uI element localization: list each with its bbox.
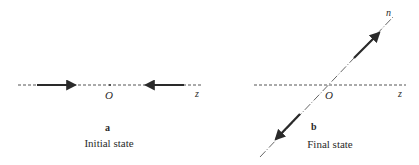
origin-label: O <box>325 89 333 101</box>
panel-letter: b <box>311 121 317 132</box>
z-axis-label: z <box>194 88 199 99</box>
origin-dot <box>109 84 111 86</box>
panel-letter: a <box>105 122 110 133</box>
panel-caption: Initial state <box>84 137 133 149</box>
n-axis-label: n <box>386 7 391 18</box>
origin-label: O <box>105 89 113 101</box>
panel-a: O z a Initial state <box>18 84 202 149</box>
upper-arrow-along-n <box>354 33 379 58</box>
lower-arrow-opposite-n <box>276 114 300 139</box>
z-axis-label: z <box>397 88 402 99</box>
panel-caption: Final state <box>307 138 353 150</box>
diagram-canvas: O z a Initial state n O z b Final state <box>0 0 419 165</box>
panel-b: n O z b Final state <box>254 7 406 157</box>
